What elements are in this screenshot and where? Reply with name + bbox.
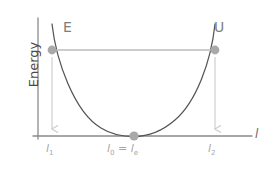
x-tick-label-l1: l1: [46, 143, 54, 157]
potential-energy-curve: [52, 24, 215, 137]
y-axis-title: Energy: [27, 20, 40, 110]
left-energy-point-marker: [48, 46, 57, 55]
tick-l2-sub: 2: [211, 149, 215, 157]
right-energy-point-marker: [211, 46, 220, 55]
tick-l0-sub2: e: [134, 149, 138, 157]
tick-l1-sub: 1: [49, 149, 53, 157]
tick-l0-equals: =: [115, 142, 131, 155]
left-branch-label: E: [63, 20, 72, 34]
right-branch-label: U: [214, 20, 224, 34]
energy-vs-length-figure: Energy l E U l1 l0 = le l2: [0, 0, 273, 170]
minimum-point-marker: [129, 131, 138, 140]
x-tick-label-l0: l0 = le: [107, 143, 138, 157]
x-axis-title: l: [255, 128, 258, 140]
x-tick-label-l2: l2: [208, 143, 216, 157]
